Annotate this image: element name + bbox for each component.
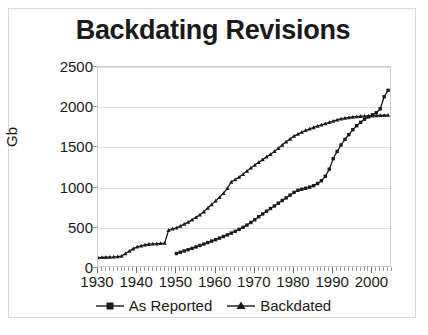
x-axis-tick-minor <box>367 267 368 271</box>
data-point-square <box>328 167 331 170</box>
x-axis-tick-minor <box>191 267 192 271</box>
x-axis-tick-minor <box>324 267 325 271</box>
chart-card: Backdating Revisions Gb 0500100015002000… <box>8 8 416 318</box>
series-layer <box>98 67 391 267</box>
x-axis-tick-minor <box>156 267 157 271</box>
x-axis-tick-minor <box>152 267 153 271</box>
data-point-square <box>382 95 385 98</box>
data-point-square <box>234 230 237 233</box>
legend-item-2[interactable]: Backdated <box>226 297 331 314</box>
series-line <box>176 90 388 253</box>
x-axis-tick-minor <box>258 267 259 271</box>
x-axis-tick-minor <box>352 267 353 271</box>
x-axis-tick-minor <box>379 267 380 271</box>
x-axis-tick-minor <box>313 267 314 271</box>
x-axis-tick-minor <box>105 267 106 271</box>
x-axis-tick-minor <box>281 267 282 271</box>
x-axis-tick-minor <box>168 267 169 271</box>
data-point-square <box>304 187 307 190</box>
x-axis-tick-minor <box>121 267 122 271</box>
data-point-square <box>206 241 209 244</box>
x-axis-tick-minor <box>273 267 274 271</box>
data-point-square <box>355 124 358 127</box>
x-axis-tick-minor <box>109 267 110 271</box>
data-point-square <box>218 236 221 239</box>
x-axis-tick-minor <box>117 267 118 271</box>
x-axis-tick-minor <box>277 267 278 271</box>
data-point-square <box>320 179 323 182</box>
data-point-square <box>379 107 382 110</box>
y-axis-tick-labels: 05001000150020002500 <box>31 66 93 267</box>
series-2 <box>97 113 390 259</box>
x-axis-tick-minor <box>317 267 318 271</box>
x-axis-tick-minor <box>360 267 361 271</box>
x-axis-tick-minor <box>375 267 376 271</box>
data-point-square <box>202 242 205 245</box>
data-point-square <box>312 184 315 187</box>
data-point-square <box>245 223 248 226</box>
x-axis-tick-minor <box>297 267 298 271</box>
chart-legend: As ReportedBackdated <box>9 297 417 314</box>
data-point-square <box>198 244 201 247</box>
x-axis-tick-minor <box>242 267 243 271</box>
data-point-square <box>273 204 276 207</box>
data-point-square <box>292 191 295 194</box>
data-point-square <box>386 89 389 92</box>
x-axis-tick-minor <box>364 267 365 271</box>
x-axis-tick-minor <box>336 267 337 271</box>
x-axis-tick-minor <box>289 267 290 271</box>
x-axis-tick-minor <box>226 267 227 271</box>
x-axis-tick-minor <box>199 267 200 271</box>
x-axis-tick-minor <box>301 267 302 271</box>
x-axis-tick-label: 1990 <box>316 273 349 290</box>
data-point-square <box>265 210 268 213</box>
chart-title: Backdating Revisions <box>9 15 417 46</box>
x-axis-tick-minor <box>387 267 388 271</box>
x-axis-tick-minor <box>344 267 345 271</box>
x-axis-tick-minor <box>171 267 172 271</box>
x-axis-tick-minor <box>246 267 247 271</box>
x-axis-tick-minor <box>285 267 286 271</box>
x-axis-tick-minor <box>211 267 212 271</box>
x-axis-tick-minor <box>383 267 384 271</box>
x-axis-tick-minor <box>219 267 220 271</box>
x-axis-tick-minor <box>309 267 310 271</box>
data-point-square <box>183 249 186 252</box>
data-point-square <box>230 231 233 234</box>
data-point-square <box>175 252 178 255</box>
x-axis-tick-minor <box>269 267 270 271</box>
y-axis-tick-label: 1000 <box>35 180 93 195</box>
data-point-square <box>343 138 346 141</box>
y-axis-title: Gb <box>3 127 20 147</box>
legend-item-1[interactable]: As Reported <box>95 297 212 314</box>
x-axis-tick-minor <box>348 267 349 271</box>
x-axis-tick-minor <box>356 267 357 271</box>
y-axis-tick-label: 2500 <box>35 59 93 74</box>
data-point-square <box>277 202 280 205</box>
x-axis-tick-minor <box>207 267 208 271</box>
data-point-square <box>347 133 350 136</box>
data-point-square <box>253 218 256 221</box>
data-point-square <box>222 235 225 238</box>
x-axis-tick-minor <box>101 267 102 271</box>
x-axis-tick-label: 1970 <box>237 273 270 290</box>
data-point-square <box>186 248 189 251</box>
x-axis-tick-minor <box>320 267 321 271</box>
x-axis-tick-minor <box>250 267 251 271</box>
data-point-square <box>179 251 182 254</box>
data-point-square <box>351 128 354 131</box>
x-axis-tick-minor <box>179 267 180 271</box>
data-point-square <box>190 247 193 250</box>
x-axis-tick-minor <box>187 267 188 271</box>
data-point-square <box>261 212 264 215</box>
data-point-square <box>300 188 303 191</box>
x-axis-tick-label: 1980 <box>276 273 309 290</box>
data-point-square <box>288 193 291 196</box>
data-point-square <box>363 118 366 121</box>
data-point-square <box>257 215 260 218</box>
data-point-square <box>359 121 362 124</box>
x-axis-tick-minor <box>124 267 125 271</box>
x-axis-tick-minor <box>148 267 149 271</box>
x-axis-tick-minor <box>391 267 392 271</box>
data-point-square <box>316 182 319 185</box>
